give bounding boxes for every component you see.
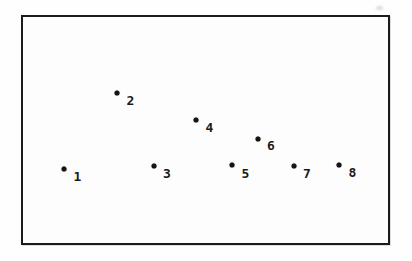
dot-point-6 — [255, 136, 260, 141]
dot-label-3: 3 — [163, 166, 171, 179]
dot-point-7 — [291, 163, 296, 168]
dot-point-2 — [115, 91, 120, 96]
dot-point-8 — [336, 162, 341, 167]
figure-canvas: 12345678 — [0, 0, 412, 261]
dot-label-8: 8 — [349, 166, 357, 179]
dot-label-6: 6 — [267, 139, 275, 152]
dot-label-1: 1 — [74, 170, 82, 183]
points-layer: 12345678 — [0, 0, 412, 261]
dot-label-4: 4 — [206, 120, 214, 133]
dot-point-1 — [62, 167, 67, 172]
scan-smudge-artifact — [376, 6, 383, 10]
dot-point-5 — [230, 163, 235, 168]
dot-label-2: 2 — [127, 94, 135, 107]
dot-point-4 — [194, 117, 199, 122]
dot-point-3 — [151, 163, 156, 168]
dot-label-5: 5 — [242, 166, 250, 179]
dot-label-7: 7 — [303, 167, 311, 180]
